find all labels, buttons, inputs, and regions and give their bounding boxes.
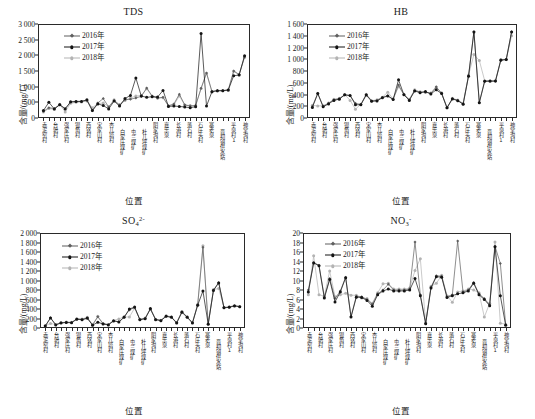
data-point	[145, 96, 148, 99]
data-point	[228, 306, 231, 309]
x-category-label: 强家庄村	[328, 332, 333, 352]
data-point	[334, 300, 337, 303]
legend-item[interactable]: 2018年	[325, 261, 365, 272]
data-point	[413, 89, 416, 92]
y-tick-label: 16	[293, 248, 301, 257]
y-tick-label: 400	[293, 90, 304, 99]
data-point	[316, 104, 319, 107]
data-point	[85, 98, 88, 101]
legend-item[interactable]: 2018年	[64, 53, 104, 64]
x-category-label: 银角村	[75, 332, 80, 347]
data-point	[49, 322, 52, 325]
data-point	[376, 293, 379, 296]
y-tick-label: 1 800	[20, 238, 37, 247]
legend: 2016年2017年2018年	[64, 31, 104, 64]
legend-item[interactable]: 2016年	[64, 31, 104, 42]
x-category-label: 强家庄村	[332, 122, 337, 142]
legend-marker-icon	[325, 241, 341, 248]
legend-item[interactable]: 2016年	[62, 241, 102, 252]
data-point	[58, 103, 61, 106]
data-point	[499, 59, 502, 62]
legend-label: 2016年	[80, 241, 102, 252]
x-axis-category-labels: 赤泥窑村台骀村强家庄村银角村西铭村宋家山村杏儿塔村白家庄煤矿屯兰煤矿杜儿坪煤矿阴…	[303, 328, 511, 388]
legend-item[interactable]: 2017年	[325, 250, 365, 261]
x-category-label: 台骀村	[52, 122, 57, 137]
panel-title-hb: HB	[267, 6, 535, 17]
legend-label: 2016年	[343, 239, 365, 250]
legend-marker-icon	[325, 252, 341, 259]
data-point	[440, 276, 443, 279]
data-point	[350, 316, 353, 319]
data-point	[462, 291, 465, 294]
data-point	[435, 88, 438, 91]
data-point	[467, 75, 470, 78]
data-point	[154, 318, 157, 321]
data-point	[499, 262, 502, 265]
x-category-label: 神堂沟村	[237, 332, 242, 352]
legend-item[interactable]: 2016年	[325, 239, 365, 250]
data-point	[196, 304, 199, 307]
legend-marker-icon	[64, 55, 80, 62]
legend-item[interactable]: 2017年	[62, 252, 102, 263]
x-category-label: 杜儿坪煤矿	[140, 339, 145, 364]
legend-label: 2016年	[82, 31, 104, 42]
data-point	[327, 102, 330, 105]
data-point	[456, 99, 459, 102]
data-point	[360, 296, 363, 299]
data-point	[102, 104, 105, 107]
data-point	[210, 90, 213, 93]
x-category-label: 寨老泉	[205, 332, 210, 347]
legend-marker-icon	[62, 265, 78, 272]
data-point	[81, 318, 84, 321]
x-category-label: 宋家山村	[361, 332, 366, 352]
legend-label: 2018年	[82, 53, 104, 64]
y-tick-label: 18	[293, 238, 301, 247]
x-axis-category-labels: 赤泥窑村台骀村强家庄村银角村西铭村宋家山村杏儿塔村白家庄煤矿屯兰煤矿杜儿坪煤矿阴…	[40, 328, 245, 388]
panel-title-tds: TDS	[0, 6, 267, 17]
data-point	[47, 101, 50, 104]
data-point	[65, 321, 68, 324]
legend-item[interactable]: 2017年	[329, 42, 369, 53]
data-point	[456, 240, 459, 243]
x-category-label: 晋祠镇供水站	[215, 339, 220, 369]
series-line	[45, 283, 239, 326]
x-category-label: 杏儿塔村	[372, 332, 377, 352]
x-category-label: 杏儿塔村	[376, 122, 381, 142]
x-category-label: 阴家沟村	[420, 122, 425, 142]
x-axis-category-labels: 赤泥窑村台骀村强家庄村银角村西铭村宋家山村杏儿塔村白家庄煤矿屯兰煤矿杜儿坪煤矿阴…	[307, 118, 517, 178]
data-point	[366, 299, 369, 302]
y-tick-label: 500	[24, 98, 35, 107]
data-point	[318, 293, 321, 296]
legend-item[interactable]: 2018年	[329, 53, 369, 64]
data-point	[307, 293, 310, 296]
x-category-label: 平泉村1	[498, 122, 503, 143]
data-point	[117, 317, 120, 320]
data-point	[344, 276, 347, 279]
data-point	[349, 94, 352, 97]
data-point	[75, 318, 78, 321]
y-tick-label: 3 000	[18, 20, 35, 29]
x-category-label: 长港村	[175, 122, 180, 137]
x-category-label: 阴家沟村	[153, 122, 158, 142]
data-point	[123, 316, 126, 319]
data-point	[359, 103, 362, 106]
y-tick-label: 1 500	[18, 67, 35, 76]
legend-item[interactable]: 2016年	[329, 31, 369, 42]
y-tick-label: 800	[26, 286, 37, 295]
legend-item[interactable]: 2018年	[62, 263, 102, 274]
data-point	[222, 306, 225, 309]
data-point	[144, 317, 147, 320]
data-point	[483, 298, 486, 301]
x-category-label: 西铭村	[86, 332, 91, 347]
data-point	[494, 241, 497, 244]
data-point	[478, 101, 481, 104]
data-point	[107, 323, 110, 326]
x-category-label: 杏儿塔村	[108, 122, 113, 142]
x-category-label: 西铭村	[86, 122, 91, 137]
data-point	[350, 294, 353, 297]
data-point	[430, 287, 433, 290]
legend-item[interactable]: 2017年	[64, 42, 104, 53]
data-point	[414, 269, 417, 272]
legend-marker-icon	[64, 33, 80, 40]
x-category-label: 长港村	[437, 332, 442, 347]
